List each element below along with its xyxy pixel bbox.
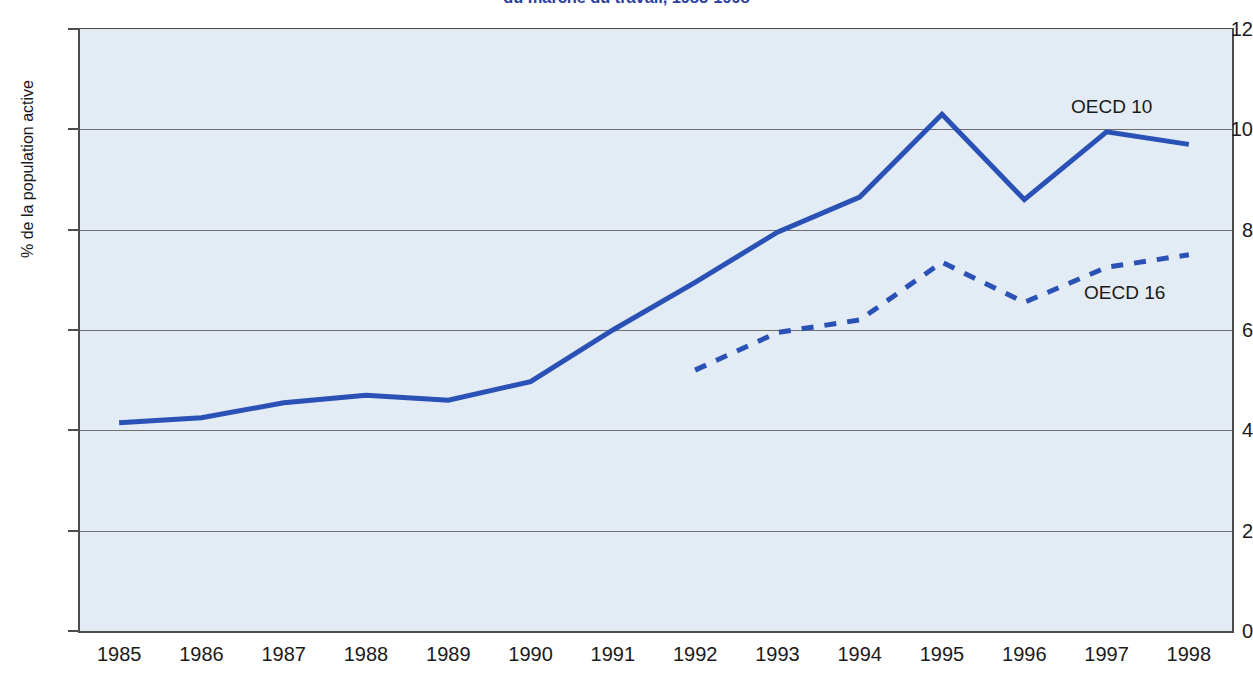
x-tick-label: 1996: [984, 644, 1064, 664]
x-tick-label: 1991: [573, 644, 653, 664]
y-tick-label: 2: [1201, 521, 1253, 541]
y-tick-mark: [68, 530, 78, 532]
x-tick-label: 1998: [1149, 644, 1229, 664]
x-tick-label: 1986: [161, 644, 241, 664]
x-tick-label: 1994: [820, 644, 900, 664]
y-axis-title: % de la population active: [19, 49, 37, 289]
x-tick-label: 1993: [737, 644, 817, 664]
y-tick-mark: [68, 329, 78, 331]
y-tick-label: 10: [1201, 119, 1253, 139]
gridline: [80, 230, 1232, 231]
y-tick-mark: [68, 630, 78, 632]
chart-figure: du marché du travail, 1985-1998 % de la …: [0, 0, 1253, 681]
gridline: [80, 129, 1232, 130]
y-tick-label: 0: [1201, 621, 1253, 641]
x-axis-line: [78, 631, 1234, 633]
x-tick-label: 1992: [655, 644, 735, 664]
x-tick-label: 1997: [1067, 644, 1147, 664]
plot-area: [78, 29, 1234, 631]
y-tick-mark: [68, 429, 78, 431]
y-tick-mark: [68, 28, 78, 30]
series-label-oecd10: OECD 10: [1071, 96, 1152, 118]
x-tick-label: 1989: [408, 644, 488, 664]
x-tick-label: 1995: [902, 644, 982, 664]
y-tick-mark: [68, 229, 78, 231]
y-tick-mark: [68, 128, 78, 130]
x-tick-label: 1988: [326, 644, 406, 664]
y-tick-label: 8: [1201, 220, 1253, 240]
x-tick-label: 1987: [244, 644, 324, 664]
gridline: [80, 330, 1232, 331]
y-tick-label: 12: [1201, 19, 1253, 39]
x-tick-label: 1990: [491, 644, 571, 664]
series-label-oecd16: OECD 16: [1084, 282, 1165, 304]
y-tick-label: 4: [1201, 420, 1253, 440]
gridline: [80, 531, 1232, 532]
gridline: [80, 430, 1232, 431]
y-tick-label: 6: [1201, 320, 1253, 340]
x-tick-label: 1985: [79, 644, 159, 664]
chart-title: du marché du travail, 1985-1998: [0, 0, 1253, 6]
